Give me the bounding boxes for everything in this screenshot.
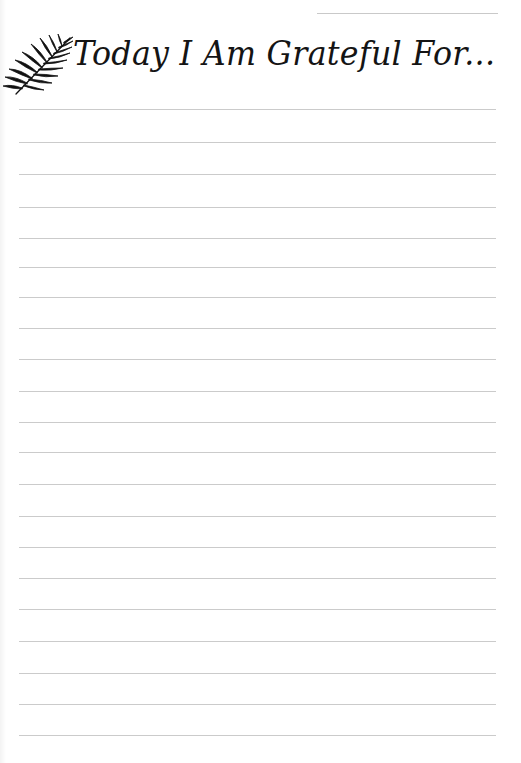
writing-line[interactable] [19,578,496,579]
journal-page: Today I Am Grateful For... [0,0,521,763]
writing-line[interactable] [19,641,496,642]
writing-line[interactable] [19,609,496,610]
writing-line[interactable] [19,452,496,453]
writing-line[interactable] [19,174,496,175]
writing-line[interactable] [19,704,496,705]
writing-lines [0,0,521,763]
writing-line[interactable] [19,359,496,360]
writing-line[interactable] [19,142,496,143]
writing-line[interactable] [19,516,496,517]
writing-line[interactable] [19,547,496,548]
writing-line[interactable] [19,109,496,110]
writing-line[interactable] [19,484,496,485]
writing-line[interactable] [19,673,496,674]
writing-line[interactable] [19,735,496,736]
writing-line[interactable] [19,391,496,392]
writing-line[interactable] [19,422,496,423]
writing-line[interactable] [19,238,496,239]
writing-line[interactable] [19,267,496,268]
writing-line[interactable] [19,328,496,329]
writing-line[interactable] [19,297,496,298]
writing-line[interactable] [19,207,496,208]
